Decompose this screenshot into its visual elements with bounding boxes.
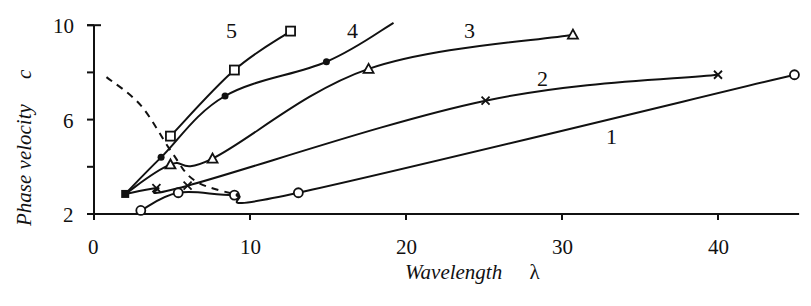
- dot-marker-icon: [323, 58, 330, 65]
- x-axis-title-text: Wavelength: [405, 260, 502, 284]
- series-label-4: 4: [347, 20, 358, 42]
- shared-start-marker-icon: [121, 190, 129, 198]
- triangle-marker-icon: [208, 154, 218, 163]
- y-axis-title-text: Phase velocity: [12, 104, 36, 226]
- series-label-5: 5: [226, 20, 237, 42]
- triangle-marker-icon: [364, 64, 374, 73]
- x-axis-title: Wavelength λ: [405, 262, 540, 283]
- circle-marker-icon: [174, 188, 183, 197]
- markers: [121, 27, 799, 215]
- circle-marker-icon: [790, 70, 799, 79]
- x-tick-label-40: 40: [708, 237, 729, 258]
- y-tick-label-2: 2: [63, 205, 74, 226]
- square-marker-icon: [230, 66, 239, 75]
- circle-marker-icon: [136, 206, 145, 215]
- square-marker-icon: [286, 27, 295, 36]
- x-tick-label-20: 20: [396, 237, 417, 258]
- x-tick-label-30: 30: [552, 237, 573, 258]
- x-tick-label-0: 0: [88, 237, 99, 258]
- x-axis-symbol: λ: [529, 260, 539, 284]
- series-label-2: 2: [537, 68, 548, 90]
- dot-marker-icon: [222, 93, 229, 100]
- dot-marker-icon: [158, 154, 165, 161]
- series-3-line: [125, 35, 573, 194]
- series-2-line: [125, 75, 718, 194]
- x-tick-label-10: 10: [240, 237, 261, 258]
- triangle-marker-icon: [568, 30, 578, 39]
- series-label-3: 3: [464, 20, 475, 42]
- axes: [87, 25, 799, 220]
- dashed-end-dot-icon: [236, 193, 240, 197]
- curves: [106, 23, 794, 211]
- y-axis-symbol: c: [12, 70, 36, 79]
- y-tick-label-6: 6: [63, 111, 74, 132]
- triangle-marker-icon: [165, 159, 175, 168]
- series-label-1: 1: [606, 126, 617, 148]
- y-axis-title: Phase velocity c: [14, 70, 35, 226]
- y-tick-label-10: 10: [53, 16, 74, 37]
- square-marker-icon: [166, 132, 175, 141]
- circle-marker-icon: [294, 188, 303, 197]
